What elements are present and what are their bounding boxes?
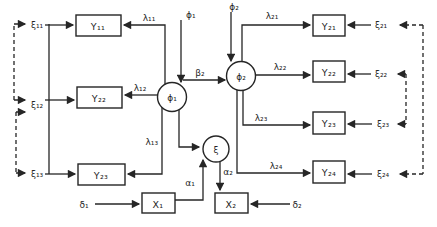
delta1-label: δ₁: [79, 200, 89, 210]
left-error-arrows: [45, 24, 75, 174]
left-error-correlation-bracket-2: [16, 112, 25, 173]
right-error-correlation-bracket-outer: [400, 25, 423, 174]
lambda24-label: λ₂₄: [270, 161, 283, 171]
y23-left-label: Y₂₃: [93, 170, 108, 181]
path-diagram-figure: Y₁₁ Y₂₂ Y₂₃ Y₂₁ Y₂₂ Y₂₃ Y₂₄ X₁ X₂ ϕ₁ ϕ₂ …: [0, 0, 437, 227]
lambda11-path: [124, 25, 165, 84]
path-diagram-canvas: Y₁₁ Y₂₂ Y₂₃ Y₂₁ Y₂₂ Y₂₃ Y₂₄ X₁ X₂ ϕ₁ ϕ₂ …: [0, 0, 437, 227]
phi2-top-label: ϕ₂: [229, 2, 239, 12]
y21-label: Y₂₁: [321, 21, 336, 32]
xi-circle-label: ξ: [213, 145, 218, 155]
xi24-label: ξ₂₄: [377, 169, 390, 179]
lambda21-label: λ₂₁: [266, 11, 279, 21]
phi1-circle-label: ϕ₁: [167, 93, 177, 103]
beta2-label: β₂: [195, 68, 205, 78]
lambda11-label: λ₁₁: [143, 13, 156, 23]
y23-right-label: Y₂₃: [321, 118, 336, 129]
phi1-to-xi-path: [179, 108, 199, 147]
delta2-label: δ₂: [292, 200, 302, 210]
x2-label: X₂: [226, 199, 237, 210]
left-error-correlation-bracket-1: [14, 24, 25, 100]
lambda12-label: λ₁₂: [134, 83, 147, 93]
lambda23-path: [243, 89, 310, 125]
xi21-label: ξ₂₁: [375, 20, 388, 30]
xi22-label: ξ₂₂: [375, 69, 388, 79]
alpha2-label: α₂: [223, 167, 233, 177]
xi12-label: ξ₁₂: [31, 100, 44, 110]
right-error-correlation-bracket-inner: [398, 74, 406, 124]
lambda23-label: λ₂₃: [255, 113, 268, 123]
y24-label: Y₂₄: [321, 167, 336, 178]
x1-label: X₁: [153, 199, 164, 210]
observed-boxes: [76, 15, 345, 213]
lambda22-label: λ₂₂: [274, 62, 287, 72]
y22-right-label: Y₂₂: [321, 67, 336, 78]
y22-left-label: Y₂₂: [91, 93, 106, 104]
xi11-label: ξ₁₁: [31, 20, 44, 30]
lambda21-path: [242, 25, 310, 62]
right-error-arrows: [348, 25, 372, 174]
lambda13-label: λ₁₃: [145, 137, 158, 147]
phi1-top-label: ϕ₁: [186, 10, 196, 20]
exogenous-arrows: [181, 12, 231, 82]
node-labels: Y₁₁ Y₂₂ Y₂₃ Y₂₁ Y₂₂ Y₂₃ Y₂₄ X₁ X₂ ϕ₁ ϕ₂ …: [90, 21, 336, 210]
phi2-circle-label: ϕ₂: [236, 72, 246, 82]
alpha1-label: α₁: [185, 178, 195, 188]
y11-label: Y₁₁: [90, 21, 105, 32]
xi13-label: ξ₁₃: [31, 169, 44, 179]
xi23-label: ξ₂₃: [377, 119, 390, 129]
